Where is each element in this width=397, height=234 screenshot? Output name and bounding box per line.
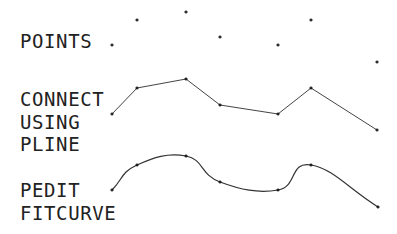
point-marker-icon — [184, 10, 187, 13]
point-marker-icon — [276, 43, 279, 46]
point-marker-icon — [184, 154, 187, 157]
points-row — [110, 10, 378, 63]
labels: POINTS CONNECT USING PLINE PEDIT FITCURV… — [20, 30, 116, 224]
point-marker-icon — [309, 18, 312, 21]
point-marker-icon — [135, 18, 138, 21]
point-marker-icon — [218, 180, 221, 183]
label-connect: CONNECT — [20, 88, 104, 110]
point-marker-icon — [276, 188, 279, 191]
point-marker-icon — [218, 35, 221, 38]
fit-curve — [112, 155, 378, 207]
point-marker-icon — [375, 60, 378, 63]
pline-row — [110, 77, 378, 131]
polyline — [112, 79, 377, 130]
label-fitcurve: FITCURVE — [20, 202, 116, 224]
label-pline: PLINE — [20, 133, 80, 155]
drawing-canvas: POINTS CONNECT USING PLINE PEDIT FITCURV… — [0, 0, 397, 234]
label-using: USING — [20, 111, 80, 133]
point-marker-icon — [309, 163, 312, 166]
label-pedit: PEDIT — [20, 179, 80, 201]
fitcurve-row — [110, 154, 379, 208]
label-points: POINTS — [20, 30, 92, 52]
point-marker-icon — [110, 43, 113, 46]
